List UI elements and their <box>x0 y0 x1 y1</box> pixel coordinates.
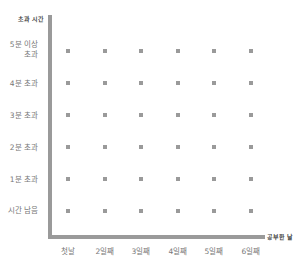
data-point <box>212 177 216 181</box>
x-tick-label: 첫날 <box>61 245 75 256</box>
data-point <box>212 113 216 117</box>
data-point <box>103 177 107 181</box>
data-point <box>66 49 70 53</box>
data-point <box>66 113 70 117</box>
data-point <box>249 177 253 181</box>
data-point <box>139 49 143 53</box>
data-point <box>176 145 180 149</box>
x-tick-label: 2일째 <box>96 245 115 256</box>
data-point <box>103 113 107 117</box>
data-point <box>249 145 253 149</box>
data-point <box>212 209 216 213</box>
x-axis-line <box>48 235 265 239</box>
y-tick-label: 3분 초과 <box>10 111 38 121</box>
y-tick-label: 5분 이상 초과 <box>10 40 38 60</box>
x-axis-title: 공부한 날 <box>267 232 293 241</box>
data-point <box>212 145 216 149</box>
y-tick-label: 시간 남음 <box>8 206 38 216</box>
data-point <box>249 81 253 85</box>
data-point <box>139 209 143 213</box>
data-point <box>212 81 216 85</box>
y-tick-label: 4분 초과 <box>10 79 38 89</box>
x-tick-label: 4일째 <box>169 245 188 256</box>
data-point <box>103 209 107 213</box>
data-point <box>176 81 180 85</box>
data-point <box>176 49 180 53</box>
x-tick-label: 6일째 <box>242 245 261 256</box>
y-tick-label: 2분 초과 <box>10 143 38 153</box>
data-point <box>139 145 143 149</box>
data-point <box>176 113 180 117</box>
data-point <box>249 209 253 213</box>
data-point <box>139 81 143 85</box>
x-tick-label: 3일째 <box>132 245 151 256</box>
data-point <box>249 49 253 53</box>
data-point <box>103 145 107 149</box>
data-point <box>212 49 216 53</box>
data-point <box>139 113 143 117</box>
data-point <box>66 81 70 85</box>
data-point <box>66 145 70 149</box>
placeholder-scatter-chart: 초과 시간 공부한 날 5분 이상 초과 4분 초과 3분 초과 2분 초과 1… <box>0 0 296 263</box>
y-tick-label: 1분 초과 <box>10 175 38 185</box>
data-point <box>66 177 70 181</box>
data-point <box>249 113 253 117</box>
data-point <box>176 177 180 181</box>
data-point <box>176 209 180 213</box>
data-point <box>103 49 107 53</box>
y-axis-line <box>48 15 52 238</box>
data-point <box>66 209 70 213</box>
data-point <box>103 81 107 85</box>
x-tick-label: 5일째 <box>205 245 224 256</box>
y-axis-title: 초과 시간 <box>8 14 44 23</box>
data-point <box>139 177 143 181</box>
